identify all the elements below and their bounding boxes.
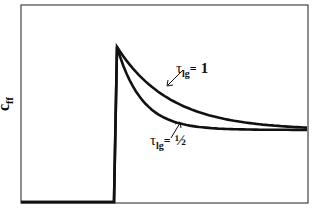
label-tau-half: τlg= ½: [150, 131, 186, 151]
y-axis-label: cff: [2, 88, 18, 118]
label-tau-1: τlg= 1: [176, 59, 208, 79]
curve-tau-1: [21, 47, 307, 202]
chart-plot-area: [0, 0, 312, 210]
chart-frame: [21, 5, 308, 203]
